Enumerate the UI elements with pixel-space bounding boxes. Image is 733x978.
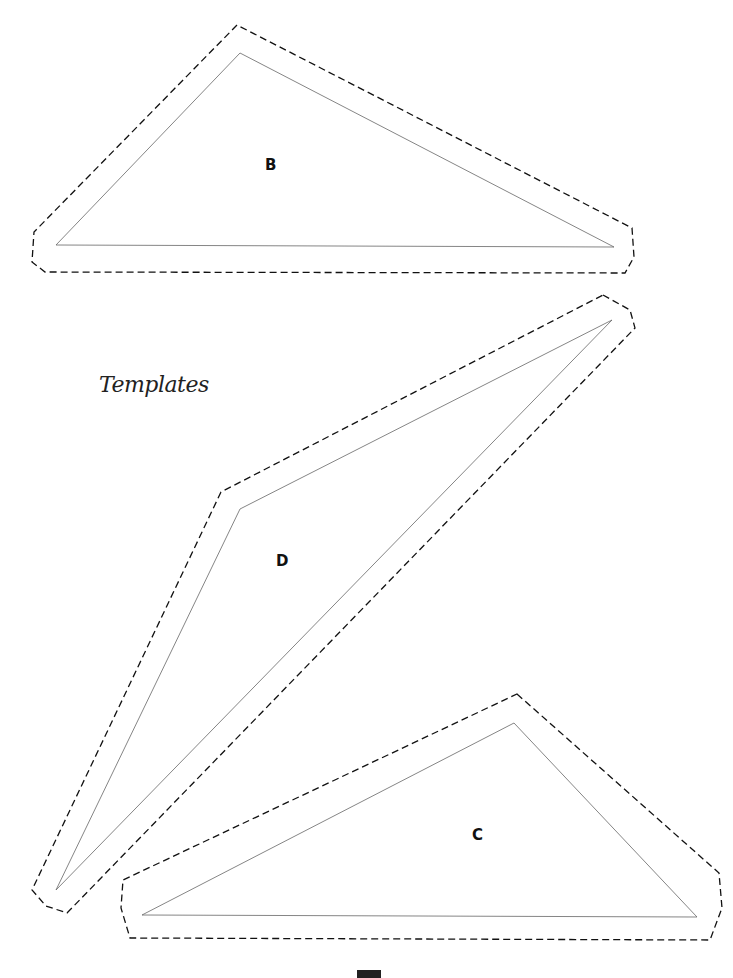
piece-b-cut-line <box>32 25 634 273</box>
piece-d-sew-line <box>56 320 612 890</box>
piece-b-sew-line <box>56 53 614 247</box>
piece-d-label: D <box>276 552 288 570</box>
piece-c-sew-line <box>142 723 697 917</box>
piece-b <box>32 25 634 273</box>
sheet-title: Templates <box>99 372 209 397</box>
piece-c-label: C <box>472 826 483 844</box>
piece-b-label: B <box>265 156 276 174</box>
template-sheet <box>0 0 733 978</box>
page-marker <box>357 970 381 978</box>
